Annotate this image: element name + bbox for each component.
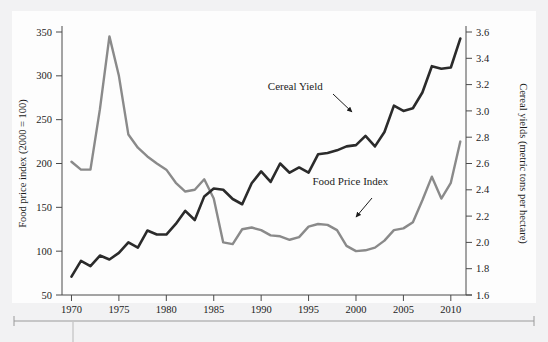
chart-svg: 501001502002503003501.61.82.02.22.42.62.… [0,0,548,342]
x-tick-label: 2005 [393,304,414,315]
y-tick-label: 200 [36,158,52,169]
y-tick-label: 150 [36,202,52,213]
annotation-label: Cereal Yield [268,80,323,92]
y-tick-label: 300 [36,70,52,81]
y2-tick-label: 2.4 [476,184,490,195]
y2-tick-label: 1.6 [476,290,489,301]
y-axis-title: Food price index (2000 = 100) [17,99,29,228]
y2-tick-label: 2.0 [476,237,489,248]
y2-tick-label: 3.6 [476,27,489,38]
page-rule [14,316,534,342]
annotations-group: Cereal YieldFood Price Index [268,80,389,217]
y2-tick-label: 3.4 [476,53,490,64]
x-tick-label: 2000 [345,304,366,315]
series-line-cereal-yield [71,39,460,277]
y2-axis-title: Cereal yields (metric tons per hectare) [517,83,529,244]
x-tick-label: 2010 [440,304,461,315]
y2-tick-label: 2.2 [476,211,489,222]
y2-tick-label: 2.6 [476,158,489,169]
annotation-arrow [356,198,372,217]
y-tick-label: 350 [36,27,52,38]
x-tick-label: 1975 [108,304,129,315]
y2-tick-label: 1.8 [476,263,489,274]
annotation-label: Food Price Index [312,175,388,187]
series-group [71,36,460,276]
x-tick-label: 1990 [251,304,272,315]
x-tick-label: 1980 [156,304,177,315]
series-line-food-price-index [71,36,460,251]
y2-tick-label: 3.0 [476,106,489,117]
y-tick-label: 250 [36,114,52,125]
figure-container: 501001502002503003501.61.82.02.22.42.62.… [0,0,548,342]
y-tick-label: 100 [36,246,52,257]
annotation-arrow [333,94,352,112]
x-tick-label: 1985 [203,304,224,315]
y-tick-label: 50 [42,290,53,301]
y2-tick-label: 3.2 [476,79,489,90]
y2-tick-label: 2.8 [476,132,489,143]
x-tick-label: 1970 [61,304,82,315]
axes-group: 501001502002503003501.61.82.02.22.42.62.… [17,26,529,315]
x-tick-label: 1995 [298,304,319,315]
